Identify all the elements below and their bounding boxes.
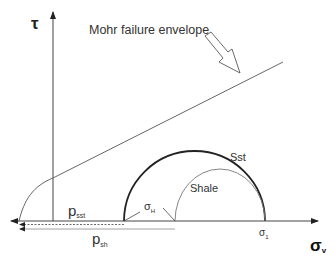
shale-label: Shale <box>190 182 218 194</box>
sigma-h-label: σH <box>144 200 155 214</box>
sigma-h-leader-1 <box>124 212 140 221</box>
envelope-label: Mohr failure envelope <box>89 23 209 37</box>
p-sh-subscript: sh <box>100 241 107 248</box>
shale-mohr-circle <box>175 169 265 221</box>
sst-label: Sst <box>230 151 246 163</box>
sigma-1-subscript: 1 <box>265 234 268 240</box>
diagram-graphics <box>0 0 336 260</box>
sigma-1-label: σ1 <box>259 227 269 240</box>
sigma-h-leader-2 <box>163 208 175 221</box>
sigma-h-symbol: σ <box>144 200 151 212</box>
p-sh-label: psh <box>92 230 108 248</box>
tau-axis-label: τ <box>31 14 39 34</box>
envelope-pointer-arrow <box>205 32 240 73</box>
p-sst-label: psst <box>68 202 85 219</box>
sigma-v-symbol: σ <box>310 236 322 255</box>
sigma-v-axis-label: σv <box>310 236 326 256</box>
mohr-diagram: τ Mohr failure envelope Sst Shale σH σ1 … <box>0 0 336 260</box>
sigma-v-subscript: v <box>322 246 326 255</box>
p-sst-subscript: sst <box>76 212 85 219</box>
sigma-h-subscript: H <box>151 208 155 214</box>
mohr-failure-envelope <box>19 62 283 221</box>
